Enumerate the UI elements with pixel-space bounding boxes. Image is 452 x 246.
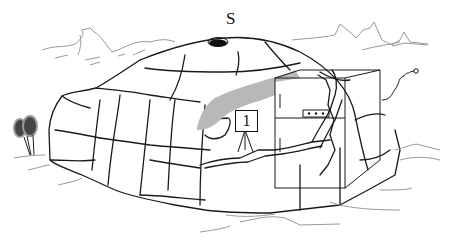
igloo-drawing (0, 0, 452, 246)
snowshoes-icon (14, 116, 37, 155)
mountains-right (292, 22, 428, 50)
mountains-left (42, 28, 175, 65)
top-marker-label: S (226, 9, 235, 29)
tripod-icon (238, 130, 253, 152)
numbered-sign: 1 (235, 110, 258, 132)
refrigerator (275, 70, 380, 188)
power-cord-plug-icon (382, 69, 418, 100)
